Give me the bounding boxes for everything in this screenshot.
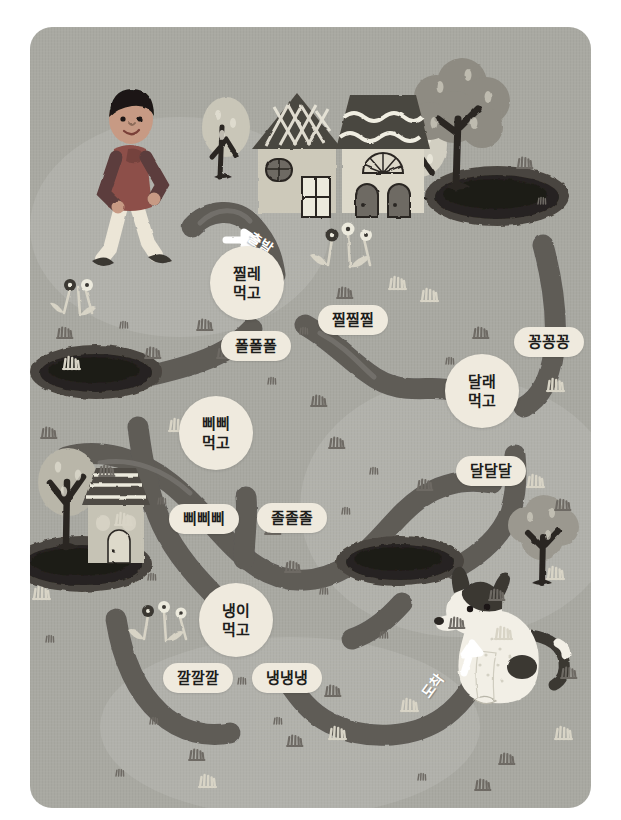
node-naengi[interactable]: 냉이 먹고 bbox=[199, 583, 273, 657]
house-small-striped bbox=[82, 468, 150, 563]
flower-cluster-left-lower bbox=[128, 601, 187, 641]
node-naengi-line1: 냉이 bbox=[222, 601, 250, 620]
house-wavy-roof bbox=[336, 95, 430, 217]
node-dallae[interactable]: 달래 먹고 bbox=[445, 354, 519, 428]
pond-bottom-mid bbox=[336, 536, 464, 586]
node-jjille-line2: 먹고 bbox=[233, 283, 261, 302]
pond-mid-left bbox=[30, 345, 162, 399]
node-jjille[interactable]: 찔레 먹고 bbox=[210, 246, 284, 320]
chip-polpolpol[interactable]: 폴폴폴 bbox=[221, 331, 291, 361]
pond-top-right bbox=[425, 166, 569, 226]
chip-daldaldal[interactable]: 달달달 bbox=[456, 456, 526, 486]
node-ppippi[interactable]: 삐삐 먹고 bbox=[179, 396, 253, 470]
chip-joljoljol[interactable]: 졸졸졸 bbox=[257, 503, 327, 533]
node-ppippi-line1: 삐삐 bbox=[202, 414, 230, 433]
illustration-canvas: 출발 도착 찔레 먹고 달래 먹고 삐삐 먹고 냉이 먹고 찔찔찔 폴폴폴 꽁꽁… bbox=[0, 0, 621, 820]
illustration-card: 출발 도착 찔레 먹고 달래 먹고 삐삐 먹고 냉이 먹고 찔찔찔 폴폴폴 꽁꽁… bbox=[30, 27, 591, 808]
node-ppippi-line2: 먹고 bbox=[202, 433, 230, 452]
chip-naengnaengnaeng[interactable]: 냉냉냉 bbox=[252, 663, 322, 693]
chip-ppippippi[interactable]: 삐삐삐 bbox=[169, 504, 239, 534]
chip-jjiljjiljjil[interactable]: 찔찔찔 bbox=[318, 305, 388, 335]
node-naengi-line2: 먹고 bbox=[222, 620, 250, 639]
node-dallae-line2: 먹고 bbox=[468, 391, 496, 410]
chip-kkalkkalkkal[interactable]: 깔깔깔 bbox=[163, 663, 233, 693]
house-checkered-roof bbox=[252, 93, 342, 217]
node-dallae-line1: 달래 bbox=[468, 372, 496, 391]
chip-kkongkkongkkong[interactable]: 꽁꽁꽁 bbox=[514, 327, 584, 357]
node-jjille-line1: 찔레 bbox=[233, 264, 261, 283]
